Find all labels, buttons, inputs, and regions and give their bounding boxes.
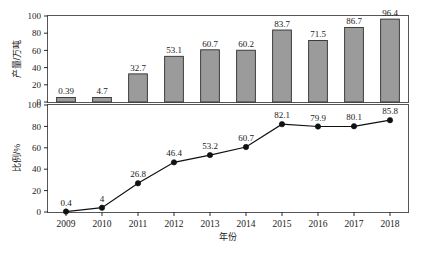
year-label: 2015 (273, 219, 292, 229)
bar (381, 19, 400, 102)
bar-y-tick-label: 20 (32, 80, 42, 90)
bar-value-label: 71.5 (310, 29, 326, 39)
bar (237, 50, 256, 102)
line-value-label: 80.1 (346, 112, 362, 122)
line-value-label: 53.2 (202, 141, 218, 151)
bar (201, 50, 220, 102)
bar (129, 74, 148, 102)
line-value-label: 0.4 (60, 198, 72, 208)
bar (273, 30, 292, 102)
bar-y-tick-label: 40 (32, 63, 42, 73)
line-y-tick-label: 80 (32, 122, 42, 132)
chart-figure: 020406080100 0.394.732.753.160.760.283.7… (0, 0, 427, 258)
x-axis-title: 年份 (219, 231, 237, 242)
combined-bar-line-chart: 020406080100 0.394.732.753.160.760.283.7… (0, 0, 427, 258)
line-marker (279, 121, 284, 126)
bar (309, 41, 328, 102)
year-label: 2013 (201, 219, 220, 229)
line-value-label: 4 (100, 194, 105, 204)
line-value-label: 85.8 (382, 106, 398, 116)
bar-y-tick-label: 80 (32, 28, 42, 38)
line-y-tick-label: 0 (37, 207, 42, 217)
bar-value-label: 32.7 (130, 63, 146, 73)
line-marker (99, 205, 104, 210)
bar-value-label: 53.1 (166, 45, 182, 55)
line-marker (207, 152, 212, 157)
bar (57, 98, 76, 103)
year-label: 2012 (165, 219, 184, 229)
bar-value-label: 4.7 (96, 86, 108, 96)
line-value-label: 60.7 (238, 133, 254, 143)
bar-value-label: 83.7 (274, 19, 290, 29)
year-label: 2018 (381, 219, 400, 229)
bar (165, 56, 184, 102)
line-value-label: 79.9 (310, 113, 326, 123)
bar-y-tick-label: 100 (28, 11, 42, 21)
line-value-label: 26.8 (130, 169, 146, 179)
bar (345, 27, 364, 102)
line-y-tick-label: 60 (32, 143, 42, 153)
year-label: 2014 (237, 219, 256, 229)
bar-y-axis-title: 产量/万吨 (11, 40, 22, 79)
line-value-label: 46.4 (166, 148, 182, 158)
line-marker (63, 209, 68, 214)
line-marker (351, 124, 356, 129)
bar-value-label: 96.4 (382, 8, 398, 18)
line-y-tick-label: 20 (32, 186, 42, 196)
line-marker (387, 117, 392, 122)
line-marker (171, 160, 176, 165)
bar (93, 98, 112, 103)
bar-y-tick-label: 60 (32, 46, 42, 56)
line-marker (135, 181, 140, 186)
line-y-tick-label: 100 (28, 100, 42, 110)
line-y-axis-title: 比例/% (11, 144, 22, 173)
year-label: 2009 (57, 219, 76, 229)
year-label: 2017 (345, 219, 364, 229)
bar-value-label: 0.39 (58, 86, 74, 96)
year-label: 2016 (309, 219, 328, 229)
bar-value-label: 60.2 (238, 39, 254, 49)
line-marker (243, 144, 248, 149)
line-y-tick-label: 40 (32, 164, 42, 174)
line-marker (315, 124, 320, 129)
year-label: 2010 (93, 219, 112, 229)
line-value-label: 82.1 (274, 110, 290, 120)
bar-value-label: 60.7 (202, 39, 218, 49)
bar-value-label: 86.7 (346, 16, 362, 26)
year-label: 2011 (129, 219, 148, 229)
